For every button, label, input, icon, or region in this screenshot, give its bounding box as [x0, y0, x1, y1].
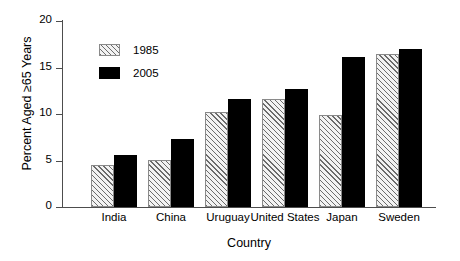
bar-uruguay-2005: [228, 99, 251, 207]
bar-japan-1985: [319, 115, 342, 207]
legend-entry-1985: 1985: [99, 41, 159, 58]
bar-united-states-2005: [285, 89, 308, 207]
legend-entry-2005: 2005: [99, 64, 159, 81]
bar-uruguay-1985: [205, 112, 228, 207]
bar-chart: Percent Aged ≥65 Years 0 5 10 15 20 Indi…: [0, 0, 460, 261]
bar-india-2005: [114, 155, 137, 207]
legend-swatch-solid-icon: [99, 67, 120, 79]
y-tick-label-5: 5: [22, 153, 52, 165]
y-tick-label-10: 10: [22, 106, 52, 118]
y-tick-label-15: 15: [22, 60, 52, 72]
bar-china-2005: [171, 139, 194, 207]
legend-label-2005: 2005: [133, 67, 159, 79]
legend: 1985 2005: [99, 41, 159, 87]
bar-china-1985: [148, 160, 171, 207]
y-tick-0: 0: [56, 207, 63, 208]
bar-japan-2005: [342, 57, 365, 207]
bar-sweden-1985: [376, 54, 399, 207]
y-tick-label-20: 20: [22, 13, 52, 25]
y-tick-label-0: 0: [22, 199, 52, 211]
x-tick-label-sweden: Sweden: [359, 211, 439, 223]
x-axis-label: Country: [60, 236, 438, 250]
x-axis-line: [62, 207, 436, 208]
bar-india-1985: [91, 165, 114, 207]
legend-label-1985: 1985: [133, 44, 159, 56]
legend-swatch-hatched-icon: [99, 44, 120, 56]
y-axis-label: Percent Aged ≥65 Years: [18, 0, 36, 207]
bar-united-states-1985: [262, 99, 285, 207]
bar-sweden-2005: [399, 49, 422, 207]
